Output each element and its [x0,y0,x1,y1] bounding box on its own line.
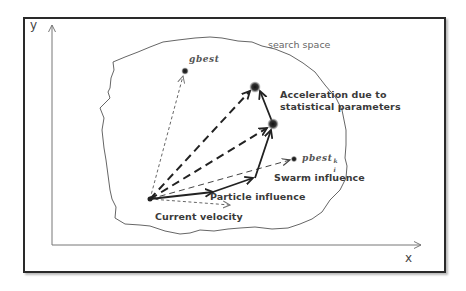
particle-position-dot [148,197,153,202]
resultant-vector-lower [150,128,267,199]
acceleration-label: Acceleration due to statistical paramete… [280,89,401,113]
new-position-lower-dot [268,119,279,130]
gbest-direction-line [150,76,183,199]
current-velocity-label: Current velocity [155,211,243,223]
particle-influence-label: Particle influence [210,191,306,203]
pbest-dot [291,156,297,162]
acceleration-label-line1: Acceleration due to [280,89,401,101]
particle-influence-vector [150,192,213,199]
gbest-dot [182,68,189,75]
swarm-influence-label: Swarm influence [274,172,365,184]
search-space-label: search space [268,39,330,50]
pbest-label-text: pbest [302,153,333,163]
pbest-label: pbestki [302,153,339,163]
y-axis-label: y [30,18,37,32]
resultant-vector-upper [150,91,250,199]
pso-diagram: y x search space gbest pbestki Accelerat… [0,0,466,291]
diagram-canvas [0,0,466,291]
x-axis-label: x [405,251,412,265]
new-position-upper-dot [250,82,261,93]
acceleration-label-line2: statistical parameters [280,101,401,113]
gbest-label: gbest [189,54,220,64]
swarm-influence-vector [255,130,271,178]
pbest-superscript: k [334,157,339,164]
